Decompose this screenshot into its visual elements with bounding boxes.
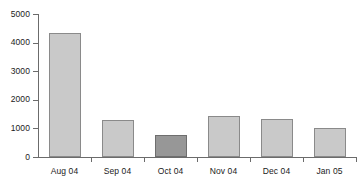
x-axis-tick	[91, 158, 92, 162]
bar-aug-04[interactable]	[49, 33, 81, 157]
x-axis-tick	[250, 158, 251, 162]
y-axis-tick-label: 2000	[0, 94, 30, 104]
x-axis-tick	[303, 158, 304, 162]
plot-area	[38, 14, 356, 157]
x-axis-tick-label: Nov 04	[197, 166, 250, 176]
x-axis-tick	[356, 158, 357, 162]
y-axis-tick	[33, 157, 38, 158]
bar-sep-04[interactable]	[102, 120, 134, 157]
x-axis-tick	[144, 158, 145, 162]
bar-nov-04[interactable]	[208, 116, 240, 157]
x-axis-tick-label: Sep 04	[91, 166, 144, 176]
x-axis-tick	[197, 158, 198, 162]
bar-chart: 010002000300040005000 Aug 04Sep 04Oct 04…	[0, 0, 361, 191]
x-axis-tick-label: Aug 04	[38, 166, 91, 176]
y-axis-tick-label: 5000	[0, 9, 30, 19]
x-axis-tick-label: Jan 05	[303, 166, 356, 176]
x-axis-tick-label: Oct 04	[144, 166, 197, 176]
bar-dec-04[interactable]	[261, 119, 293, 157]
y-axis-tick-label: 0	[0, 152, 30, 162]
bar-oct-04[interactable]	[155, 135, 187, 157]
y-axis-tick-label: 3000	[0, 66, 30, 76]
bar-jan-05[interactable]	[314, 128, 346, 157]
x-axis-tick-label: Dec 04	[250, 166, 303, 176]
y-axis-tick-label: 4000	[0, 37, 30, 47]
y-axis-tick-label: 1000	[0, 123, 30, 133]
